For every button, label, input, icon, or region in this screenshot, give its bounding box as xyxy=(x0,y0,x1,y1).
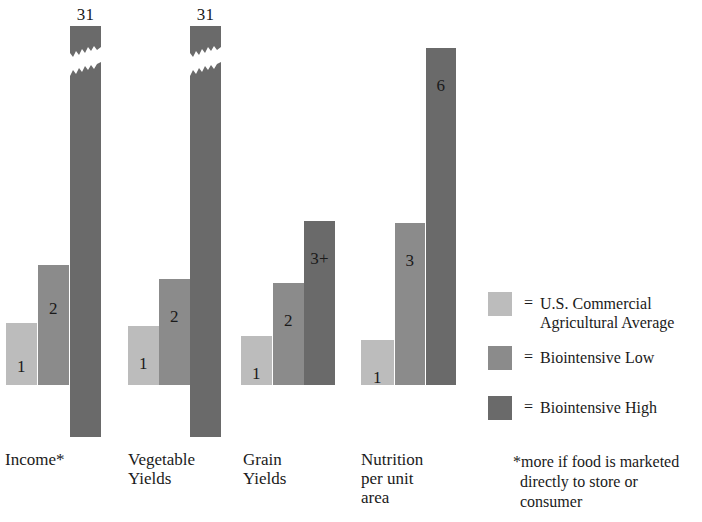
bar-value-grain-yields-biointensive-high: 3+ xyxy=(304,250,335,267)
legend-item-biointensive-low: = Biointensive Low xyxy=(488,346,654,370)
bar-vegetable-yields-biointensive-high-stub xyxy=(190,26,221,58)
torn-edge-top-icon xyxy=(70,26,101,58)
legend-swatch-us-average xyxy=(488,292,512,316)
bar-value-vegetable-yields-biointensive-high: 31 xyxy=(190,6,221,23)
bar-grain-yields-biointensive-low xyxy=(273,283,304,385)
legend-equals-sign: = xyxy=(524,294,533,312)
legend-equals-sign: = xyxy=(524,398,533,416)
footnote: *more if food is marketed directly to st… xyxy=(513,452,702,512)
bar-chart: 1 2 31 Income* 1 2 xyxy=(0,0,702,522)
bar-value-vegetable-yields-us-average: 1 xyxy=(128,355,159,372)
bar-nutrition-per-unit-area-biointensive-low xyxy=(395,223,425,385)
bar-income-biointensive-high-stub xyxy=(70,26,101,58)
torn-edge-bottom-icon xyxy=(190,62,221,437)
category-label-nutrition-per-unit-area: Nutrition per unit area xyxy=(361,450,423,507)
bar-value-grain-yields-us-average: 1 xyxy=(241,365,272,382)
bar-grain-yields-biointensive-high xyxy=(304,221,335,385)
bar-vegetable-yields-biointensive-high xyxy=(190,62,221,437)
legend-label-biointensive-high: Biointensive High xyxy=(540,398,657,417)
bar-value-vegetable-yields-biointensive-low: 2 xyxy=(159,308,190,325)
bar-nutrition-per-unit-area-biointensive-high xyxy=(426,48,456,385)
torn-edge-top-icon xyxy=(190,26,221,58)
legend-item-biointensive-high: = Biointensive High xyxy=(488,396,657,420)
bar-value-nutrition-per-unit-area-biointensive-high: 6 xyxy=(426,77,456,94)
plot-area: 1 2 31 Income* 1 2 xyxy=(0,0,470,470)
bar-income-biointensive-high xyxy=(70,62,101,437)
legend-label-us-average: U.S. Commercial Agricultural Average xyxy=(540,294,674,332)
category-label-vegetable-yields: Vegetable Yields xyxy=(128,450,195,488)
category-label-income: Income* xyxy=(5,450,64,469)
torn-edge-bottom-icon xyxy=(70,62,101,437)
bar-value-income-biointensive-low: 2 xyxy=(38,300,69,317)
bar-value-nutrition-per-unit-area-us-average: 1 xyxy=(361,369,394,386)
legend-label-biointensive-low: Biointensive Low xyxy=(540,348,654,367)
bar-value-nutrition-per-unit-area-biointensive-low: 3 xyxy=(395,252,425,269)
legend-item-us-average: = U.S. Commercial Agricultural Average xyxy=(488,292,674,332)
category-label-grain-yields: Grain Yields xyxy=(243,450,286,488)
bar-value-income-us-average: 1 xyxy=(6,358,37,375)
bar-vegetable-yields-biointensive-low xyxy=(159,279,190,385)
legend-swatch-biointensive-high xyxy=(488,396,512,420)
legend-swatch-biointensive-low xyxy=(488,346,512,370)
bar-income-biointensive-low xyxy=(38,265,69,385)
bar-value-income-biointensive-high: 31 xyxy=(70,6,101,23)
bar-value-grain-yields-biointensive-low: 2 xyxy=(273,312,304,329)
legend-equals-sign: = xyxy=(524,348,533,366)
